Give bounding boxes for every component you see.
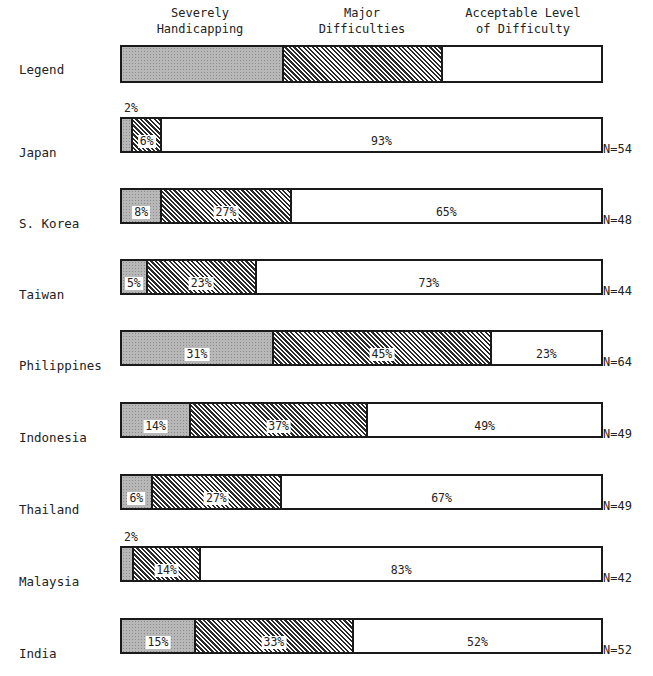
legend-swatch-acceptable bbox=[441, 47, 601, 81]
stacked-bar: 2%6%93% bbox=[120, 117, 603, 153]
percent-label: 2% bbox=[122, 102, 140, 115]
sample-size-label: N=44 bbox=[603, 284, 632, 298]
percent-label: 6% bbox=[127, 492, 145, 505]
segment-acceptable: 67% bbox=[280, 476, 601, 508]
stacked-bar: 6%27%67% bbox=[120, 474, 603, 510]
percent-label: 15% bbox=[146, 636, 171, 649]
percent-label: 49% bbox=[472, 420, 497, 433]
legend-bar bbox=[120, 45, 603, 83]
segment-major: 23% bbox=[146, 261, 255, 293]
sample-size-label: N=52 bbox=[603, 643, 632, 657]
segment-major: 6% bbox=[131, 119, 159, 151]
percent-label: 2% bbox=[122, 531, 140, 544]
percent-label: 33% bbox=[261, 636, 286, 649]
legend-header-major: Major Difficulties bbox=[282, 5, 442, 37]
row-label: Philippines bbox=[19, 358, 102, 373]
segment-major: 14% bbox=[132, 548, 200, 580]
segment-major: 33% bbox=[194, 620, 352, 652]
percent-label: 23% bbox=[189, 277, 214, 290]
stacked-bar: 31%45%23% bbox=[120, 330, 603, 366]
percent-label: 52% bbox=[465, 636, 490, 649]
sample-size-label: N=42 bbox=[603, 571, 632, 585]
percent-label: 14% bbox=[154, 564, 179, 577]
segment-acceptable: 93% bbox=[160, 119, 601, 151]
segment-severe: 14% bbox=[122, 404, 189, 436]
segment-acceptable: 49% bbox=[366, 404, 601, 436]
segment-severe: 15% bbox=[122, 620, 194, 652]
segment-major: 27% bbox=[151, 476, 280, 508]
segment-major: 45% bbox=[272, 332, 490, 364]
legend-swatch-major bbox=[282, 47, 442, 81]
row-label: Malaysia bbox=[19, 574, 79, 589]
legend-swatch-severe bbox=[122, 47, 282, 81]
percent-label: 14% bbox=[143, 420, 168, 433]
legend-header-severe: Severely Handicapping bbox=[120, 5, 280, 37]
sample-size-label: N=54 bbox=[603, 142, 632, 156]
percent-label: 45% bbox=[369, 348, 394, 361]
percent-label: 6% bbox=[138, 135, 156, 148]
percent-label: 65% bbox=[434, 206, 459, 219]
percent-label: 8% bbox=[132, 206, 150, 219]
stacked-bar: 15%33%52% bbox=[120, 618, 603, 654]
percent-label: 67% bbox=[429, 492, 454, 505]
sample-size-label: N=49 bbox=[603, 499, 632, 513]
segment-major: 27% bbox=[160, 190, 289, 222]
segment-severe: 8% bbox=[122, 190, 160, 222]
segment-severe: 2% bbox=[122, 548, 132, 580]
stacked-bar: 14%37%49% bbox=[120, 402, 603, 438]
segment-severe: 2% bbox=[122, 119, 131, 151]
percent-label: 27% bbox=[214, 206, 239, 219]
row-label: Japan bbox=[19, 145, 57, 160]
percent-label: 93% bbox=[369, 135, 394, 148]
sample-size-label: N=48 bbox=[603, 213, 632, 227]
legend-label: Legend bbox=[19, 62, 64, 77]
row-label: Thailand bbox=[19, 502, 79, 517]
stacked-bar: 2%14%83% bbox=[120, 546, 603, 582]
segment-severe: 5% bbox=[122, 261, 146, 293]
percent-label: 5% bbox=[125, 277, 143, 290]
row-label: Taiwan bbox=[19, 287, 64, 302]
percent-label: 27% bbox=[204, 492, 229, 505]
percent-label: 23% bbox=[534, 348, 559, 361]
row-label: S. Korea bbox=[19, 216, 79, 231]
segment-acceptable: 65% bbox=[290, 190, 601, 222]
segment-severe: 6% bbox=[122, 476, 151, 508]
segment-acceptable: 52% bbox=[352, 620, 601, 652]
percent-label: 31% bbox=[185, 348, 210, 361]
stacked-bar: 5%23%73% bbox=[120, 259, 603, 295]
row-label: Indonesia bbox=[19, 430, 87, 445]
percent-label: 37% bbox=[266, 420, 291, 433]
percent-label: 73% bbox=[417, 277, 442, 290]
segment-major: 37% bbox=[189, 404, 366, 436]
legend-header-acceptable: Acceptable Level of Difficulty bbox=[443, 5, 603, 37]
stacked-bar: 8%27%65% bbox=[120, 188, 603, 224]
segment-acceptable: 83% bbox=[199, 548, 601, 580]
percent-label: 83% bbox=[389, 564, 414, 577]
row-label: India bbox=[19, 646, 57, 661]
segment-acceptable: 23% bbox=[490, 332, 601, 364]
segment-severe: 31% bbox=[122, 332, 272, 364]
sample-size-label: N=64 bbox=[603, 355, 632, 369]
segment-acceptable: 73% bbox=[255, 261, 601, 293]
sample-size-label: N=49 bbox=[603, 427, 632, 441]
